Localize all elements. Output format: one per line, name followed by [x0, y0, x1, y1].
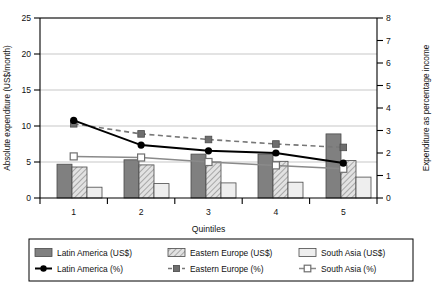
- marker-latin-america-q1: [70, 117, 77, 124]
- legend-label-eastern-europe-pct: Eastern Europe (%): [190, 264, 264, 274]
- bar-eastern-europe-q3: [206, 162, 221, 198]
- bar-south-asia-q3: [221, 183, 236, 198]
- ytick-left-15: 15: [21, 85, 31, 95]
- ytick-right-8: 8: [386, 13, 391, 23]
- x-axis-title: Quintiles: [192, 224, 225, 234]
- legend-label-south-asia-usd: South Asia (US$): [321, 248, 385, 258]
- xtick-q1: 1: [71, 207, 76, 217]
- marker-south-asia-q4: [272, 162, 279, 169]
- marker-south-asia-q3: [205, 159, 212, 166]
- ytick-left-20: 20: [21, 49, 31, 59]
- legend-label-south-asia-pct: South Asia (%): [321, 264, 377, 274]
- ytick-right-1: 1: [386, 171, 391, 181]
- legend-label-latin-america-usd: Latin America (US$): [57, 248, 132, 258]
- marker-eastern-europe-q4: [273, 141, 280, 148]
- legend-item-eastern-europe-usd: Eastern Europe (US$): [168, 248, 273, 258]
- marker-south-asia-q2: [138, 154, 145, 161]
- y-axis-ticklabels-left: 0 5 10 15 20 25: [21, 13, 31, 203]
- ytick-right-6: 6: [386, 58, 391, 68]
- bar-latin-america-q2: [124, 160, 139, 198]
- xtick-q2: 2: [139, 207, 144, 217]
- bar-south-asia-q1: [87, 187, 102, 198]
- bar-latin-america-q1: [57, 164, 72, 198]
- ytick-left-25: 25: [21, 13, 31, 23]
- y-axis-ticklabels-right: 0 1 2 3 4 5 6 7 8: [386, 13, 391, 203]
- ytick-left-5: 5: [26, 157, 31, 167]
- light-bar-swatch-icon: [299, 249, 316, 257]
- legend-item-south-asia-usd: South Asia (US$): [299, 248, 385, 258]
- bar-south-asia-q4: [288, 182, 303, 198]
- y-axis-ticks-left: [34, 18, 40, 198]
- marker-south-asia-q1: [70, 153, 77, 160]
- legend-item-south-asia-pct: South Asia (%): [299, 264, 377, 274]
- marker-eastern-europe-q2: [138, 131, 145, 138]
- x-axis-ticklabels: 1 2 3 4 5: [71, 207, 346, 217]
- marker-latin-america-q4: [272, 149, 279, 156]
- x-axis-ticks: [40, 198, 377, 204]
- chart-figure: 0 5 10 15 20 25 0 1 2 3 4 5 6 7: [0, 0, 437, 285]
- ytick-left-0: 0: [26, 193, 31, 203]
- xtick-q5: 5: [341, 207, 346, 217]
- chart-svg: 0 5 10 15 20 25 0 1 2 3 4 5 6 7: [0, 0, 437, 285]
- bar-south-asia-q5: [356, 177, 371, 198]
- legend-label-latin-america-pct: Latin America (%): [57, 264, 123, 274]
- marker-latin-america-q5: [340, 160, 347, 167]
- legend-item-latin-america-usd: Latin America (US$): [35, 248, 132, 258]
- y-axis-title-right: Expenditure as percentage income: [422, 44, 431, 171]
- marker-latin-america-q3: [205, 147, 212, 154]
- ytick-right-5: 5: [386, 81, 391, 91]
- ytick-right-7: 7: [386, 36, 391, 46]
- hatched-bar-swatch-icon: [168, 249, 185, 257]
- y-axis-ticks-right: [377, 18, 383, 198]
- ytick-left-10: 10: [21, 121, 31, 131]
- ytick-right-0: 0: [386, 193, 391, 203]
- legend-circle-marker-icon: [40, 265, 46, 271]
- marker-eastern-europe-q5: [340, 144, 347, 151]
- marker-eastern-europe-q3: [205, 136, 212, 143]
- ytick-right-2: 2: [386, 148, 391, 158]
- legend-box: [29, 239, 413, 281]
- marker-latin-america-q2: [138, 142, 145, 149]
- bar-eastern-europe-q2: [139, 165, 154, 198]
- xtick-q3: 3: [206, 207, 211, 217]
- solid-gray-bar-swatch-icon: [35, 249, 52, 257]
- y-axis-title-left: Absolute expenditure (US$/month): [3, 45, 12, 171]
- xtick-q4: 4: [274, 207, 279, 217]
- ytick-right-3: 3: [386, 126, 391, 136]
- bar-latin-america-q4: [258, 154, 273, 198]
- legend-label-eastern-europe-usd: Eastern Europe (US$): [190, 248, 273, 258]
- legend-open-square-marker-icon: [304, 265, 311, 272]
- bar-south-asia-q2: [154, 184, 169, 198]
- bar-eastern-europe-q1: [72, 167, 87, 198]
- legend-filled-square-marker-icon: [173, 265, 179, 271]
- bar-latin-america-q5: [326, 134, 341, 198]
- ytick-right-4: 4: [386, 103, 391, 113]
